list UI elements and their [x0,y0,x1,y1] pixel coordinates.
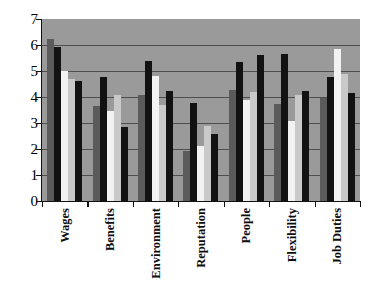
y-tick-mark [36,175,42,176]
x-tick-label: People [240,208,253,243]
bar [211,134,218,201]
bar [250,92,257,201]
bar [121,127,128,201]
y-tick-label: 7 [16,12,38,27]
bar-group-wages [42,19,87,201]
x-tick-label: Wages [58,208,71,243]
x-label-cell: Flexibility [269,208,314,282]
x-label-cell: Wages [42,208,87,282]
bar [190,103,197,201]
bar [159,105,166,201]
bar [281,54,288,201]
y-tick-mark [36,19,42,20]
x-tick-mark [269,201,270,207]
bar [327,77,334,201]
bar [61,71,68,201]
bar [204,126,211,201]
y-tick-label: 4 [16,90,38,105]
x-axis-labels: WagesBenefitsEnvironmentReputationPeople… [42,208,360,282]
y-tick-mark [36,149,42,150]
bar [229,90,236,201]
x-tick-label: Benefits [104,208,117,251]
bar [152,76,159,201]
x-axis-line [41,201,360,202]
bar [93,106,100,201]
bar [100,77,107,201]
bar [114,95,121,201]
bar-group-reputation [178,19,223,201]
x-tick-mark [178,201,179,207]
bar [288,121,295,201]
x-label-cell: People [224,208,269,282]
bar [166,91,173,202]
x-label-cell: Benefits [87,208,132,282]
bar [183,151,190,201]
y-tick-label: 5 [16,64,38,79]
x-label-cell: Environment [133,208,178,282]
y-tick-mark [36,123,42,124]
bar [68,79,75,201]
bar [243,100,250,201]
bar [348,93,355,201]
x-tick-label: Job Duties [331,208,344,265]
x-tick-mark [87,201,88,207]
x-tick-mark [224,201,225,207]
bar [75,81,82,201]
bar [341,74,348,201]
bar-group-flexibility [269,19,314,201]
x-tick-mark [42,201,43,207]
bar [47,39,54,201]
bar-chart: 01234567 WagesBenefitsEnvironmentReputat… [0,0,376,284]
bar-group-people [224,19,269,201]
y-tick-label: 6 [16,38,38,53]
bar [54,47,61,201]
bar [145,61,152,201]
bar [236,62,243,201]
y-tick-label: 1 [16,168,38,183]
bar [320,98,327,201]
y-tick-label: 3 [16,116,38,131]
bar [334,49,341,201]
x-tick-label: Flexibility [285,208,298,262]
y-tick-label: 2 [16,142,38,157]
x-tick-label: Environment [149,208,162,279]
bar [295,95,302,201]
bar [257,55,264,201]
plot-area [42,19,360,201]
x-tick-mark [133,201,134,207]
y-tick-mark [36,97,42,98]
y-tick-label: 0 [16,194,38,209]
x-label-cell: Job Duties [315,208,360,282]
y-tick-mark [36,71,42,72]
x-tick-label: Reputation [194,208,207,268]
bar [107,111,114,201]
bar [197,146,204,201]
bar [274,104,281,201]
bar-group-environment [133,19,178,201]
x-tick-mark [360,201,361,207]
x-label-cell: Reputation [178,208,223,282]
y-tick-mark [36,45,42,46]
bar-group-benefits [87,19,132,201]
x-tick-mark [315,201,316,207]
bar [138,95,145,201]
bar [302,91,309,201]
bar-groups [42,19,360,201]
y-axis-labels: 01234567 [16,12,38,206]
bar-group-job-duties [315,19,360,201]
